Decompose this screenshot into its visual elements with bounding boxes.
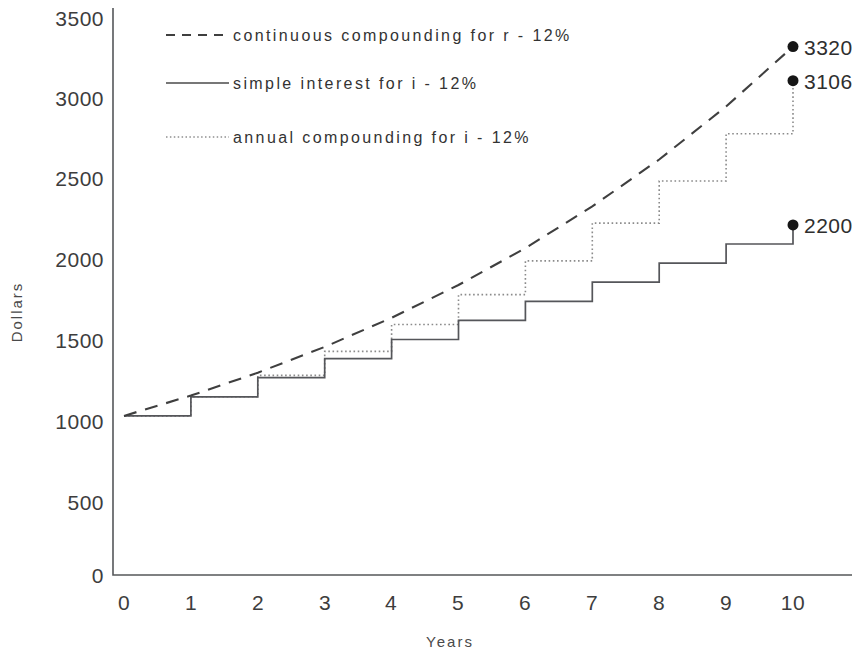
x-tick-label: 4	[385, 591, 397, 614]
y-tick-label: 0	[92, 564, 104, 587]
series-group	[124, 47, 793, 416]
x-tick-label: 2	[252, 591, 264, 614]
endpoint-marker	[788, 75, 799, 86]
axis-lines	[113, 8, 852, 575]
x-axis-title: Years	[426, 633, 474, 650]
chart-legend: continuous compounding for r - 12% simpl…	[166, 27, 572, 146]
x-tick-label: 9	[720, 591, 732, 614]
interest-growth-chart: 3500 3000 2500 2000 1500 1000 500 0 0 1 …	[0, 0, 860, 664]
endpoint-value-label: 2200	[804, 214, 853, 237]
legend-label-annual: annual compounding for i - 12%	[233, 129, 531, 146]
x-tick-label: 5	[452, 591, 464, 614]
endpoint-marker	[788, 219, 799, 230]
y-tick-label: 1500	[55, 329, 104, 352]
x-tick-label: 1	[185, 591, 197, 614]
endpoint-annotations: 332031062200	[788, 36, 853, 237]
y-axis-title: Dollars	[8, 282, 25, 343]
x-tick-label: 0	[118, 591, 130, 614]
legend-label-continuous: continuous compounding for r - 12%	[233, 27, 572, 44]
y-axis-ticks: 3500 3000 2500 2000 1500 1000 500 0	[55, 7, 104, 587]
x-tick-label: 8	[653, 591, 665, 614]
x-axis-ticks: 0 1 2 3 4 5 6 7 8 9 10	[118, 591, 805, 614]
y-tick-label: 1000	[55, 410, 104, 433]
y-tick-label: 500	[67, 491, 104, 514]
axes-group	[113, 8, 852, 575]
y-tick-label: 3000	[55, 87, 104, 110]
series-line-continuous-compounding	[124, 47, 793, 416]
series-line-simple-interest	[124, 225, 793, 416]
y-tick-label: 2500	[55, 167, 104, 190]
y-tick-label: 3500	[55, 7, 104, 30]
x-tick-label: 10	[781, 591, 805, 614]
x-tick-label: 6	[519, 591, 531, 614]
x-tick-label: 3	[319, 591, 331, 614]
endpoint-marker	[788, 41, 799, 52]
legend-label-simple: simple interest for i - 12%	[233, 75, 478, 92]
y-tick-label: 2000	[55, 248, 104, 271]
endpoint-value-label: 3106	[804, 70, 853, 93]
endpoint-value-label: 3320	[804, 36, 853, 59]
x-tick-label: 7	[586, 591, 598, 614]
